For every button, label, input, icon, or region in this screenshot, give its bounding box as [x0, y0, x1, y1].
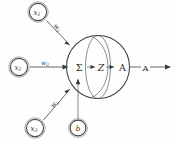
activation-symbol: A: [118, 62, 126, 73]
output-connection: [130, 65, 172, 70]
input-node-x3[interactable]: x3: [25, 118, 45, 138]
arrow-head-output: [165, 65, 171, 70]
arrow-head-sigma-z: [91, 65, 96, 69]
weight-label-w2: w2: [41, 59, 49, 67]
weight-label-w1: w1: [52, 22, 64, 34]
arrow-head-bias: [76, 79, 81, 85]
neuron-diagram-canvas: x1 x2 x3 b w1 w2 w3: [0, 0, 176, 141]
input-node-x1[interactable]: x1: [28, 2, 48, 22]
weight-label-group-w2: w2: [41, 59, 49, 67]
neuron-diagram-svg: x1 x2 x3 b w1 w2 w3: [0, 0, 176, 141]
bias-node[interactable]: b: [69, 119, 88, 138]
weight-label-group-w3: w3: [49, 98, 61, 110]
arrow-head-x2: [63, 65, 69, 70]
weight-label-w3: w3: [49, 98, 61, 110]
output-label: A: [142, 63, 149, 73]
connection-bias: [76, 79, 81, 120]
bias-label: b: [76, 124, 81, 133]
input-node-x2[interactable]: x2: [9, 57, 29, 77]
connection-x2: [30, 65, 69, 70]
weight-label-group-w1: w1: [52, 22, 64, 34]
arrow-head-z-a: [110, 65, 115, 69]
net-input-symbol: Z: [97, 62, 105, 73]
summation-symbol: Σ: [76, 62, 83, 73]
